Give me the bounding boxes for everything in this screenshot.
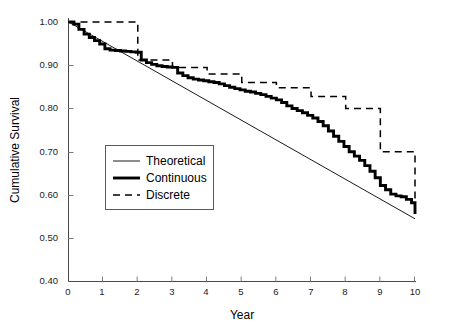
y-tick-label-6: 1.00 [40,16,59,27]
y-tick-label-1: 0.50 [40,232,59,243]
x-tick-marks [103,277,415,282]
y-tick-label-4: 0.80 [40,102,59,113]
legend-label-theoretical: Theoretical [146,154,205,168]
x-tick-label-1: 1 [99,286,104,297]
x-tick-label-6: 6 [273,286,278,297]
y-tick-label-0: 0.40 [40,275,59,286]
x-tick-label-8: 8 [342,286,347,297]
legend-label-continuous: Continuous [146,171,207,185]
y-tick-label-3: 0.70 [40,146,59,157]
x-tick-label-3: 3 [169,286,174,297]
survival-curve-figure: Cumulative Survival Year 0.40 0.50 0.60 … [0,0,456,331]
x-tick-label-5: 5 [238,286,243,297]
chart-canvas: Cumulative Survival Year 0.40 0.50 0.60 … [0,0,456,331]
y-tick-marks [69,23,74,239]
y-axis-title: Cumulative Survival [8,97,22,203]
y-tick-label-5: 0.90 [40,59,59,70]
x-tick-label-9: 9 [377,286,382,297]
y-tick-label-2: 0.60 [40,189,59,200]
x-tick-label-2: 2 [134,286,139,297]
x-tick-label-0: 0 [65,286,70,297]
x-tick-label-7: 7 [308,286,313,297]
x-tick-label-4: 4 [203,286,208,297]
legend-label-discrete: Discrete [146,188,190,202]
legend: Theoretical Continuous Discrete [106,146,214,210]
x-axis-title: Year [230,308,254,322]
x-tick-label-10: 10 [410,286,421,297]
